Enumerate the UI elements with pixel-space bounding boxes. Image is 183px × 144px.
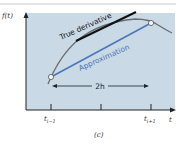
tick-right-sub: i+1 [147, 118, 156, 124]
figure-caption: (c) [94, 131, 103, 139]
tick-left-sub: i−1 [47, 118, 56, 124]
interval-label: 2h [95, 82, 105, 91]
tick-label-right: ti+1 [144, 115, 156, 124]
point-left-circle-icon [48, 74, 53, 79]
y-axis-label: f(t) [2, 12, 13, 20]
point-right-circle-icon [148, 20, 153, 25]
tick-label-left: ti−1 [44, 115, 56, 124]
x-axis-label: t [169, 116, 172, 124]
